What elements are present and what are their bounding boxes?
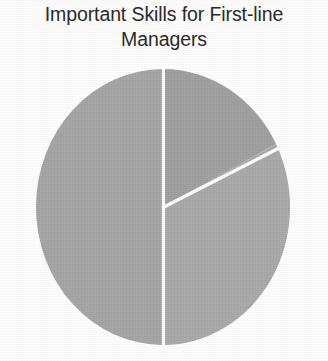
pie-chart-svg xyxy=(0,0,328,361)
pie-slice-1[interactable] xyxy=(36,69,163,345)
pie-chart-figure: Important Skills for First-line Managers xyxy=(0,0,328,361)
pie-chart-area xyxy=(0,0,328,361)
